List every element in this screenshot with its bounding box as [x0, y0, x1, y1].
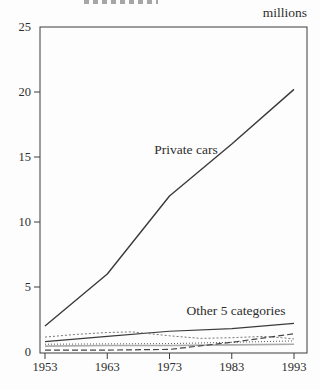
y-tick-label: 25: [19, 20, 32, 34]
series-line-private-cars: [45, 89, 294, 326]
y-tick-label: 15: [19, 150, 32, 164]
y-tick-label: 20: [19, 85, 32, 99]
x-tick-label: 1993: [282, 360, 307, 374]
other-categories-label: Other 5 categories: [186, 303, 286, 319]
unit-label: millions: [263, 5, 307, 21]
line-chart-plot: 051015202519531963197319831993: [0, 0, 320, 390]
x-tick-label: 1963: [95, 360, 120, 374]
x-tick-label: 1983: [219, 360, 244, 374]
private-cars-label: Private cars: [150, 142, 222, 158]
cropped-title-fragment: [84, 0, 158, 4]
x-tick-label: 1953: [33, 360, 58, 374]
series-line-other-category-fine-dotted-line: [45, 341, 294, 344]
y-tick-label: 0: [25, 345, 31, 359]
series-line-other-category-gray-line: [45, 344, 294, 346]
vehicle-chart: millions 051015202519531963197319831993 …: [0, 0, 320, 390]
x-tick-label: 1973: [157, 360, 182, 374]
y-tick-label: 10: [19, 215, 32, 229]
y-tick-label: 5: [25, 280, 31, 294]
